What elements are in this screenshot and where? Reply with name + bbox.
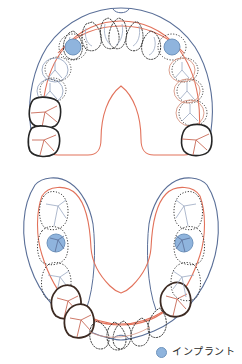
tooth-LL8-cusp-lines [46,200,66,226]
upper-incisal-notch [113,9,129,13]
implant-legend-swatch-icon [156,347,167,358]
lower-anterior-denture-teeth [90,308,167,350]
upper-right-implant-group [158,34,186,60]
upper-left-posterior-teeth [37,58,68,103]
lower-left-implant-group [47,234,65,252]
legend: インプラント [156,343,236,361]
tooth-LL8-outline [40,192,69,230]
upper-right-implant-marker [164,39,180,55]
lower-gingiva-outline [24,185,219,340]
dental-chart-figure: インプラント [0,0,242,364]
upper-left-existing-molars [28,97,60,156]
lower-right-existing-tooth [160,282,190,316]
lower-gingiva-top-right [149,178,207,224]
lower-right-implant-group [175,234,193,252]
lower-arch-group [24,178,219,350]
tooth-LR6-cusp-lines [176,200,196,226]
upper-right-existing-molar [182,124,212,155]
upper-left-implant-marker [65,39,81,55]
lower-gingiva-top-left [35,178,93,224]
dental-arch-svg [0,0,242,364]
tooth-LR3-crown [160,282,190,316]
implant-legend-label: インプラント [172,346,236,358]
upper-arch-group [28,8,212,156]
lower-left-existing-teeth [51,285,94,338]
tooth-LR6-outline [174,192,203,230]
